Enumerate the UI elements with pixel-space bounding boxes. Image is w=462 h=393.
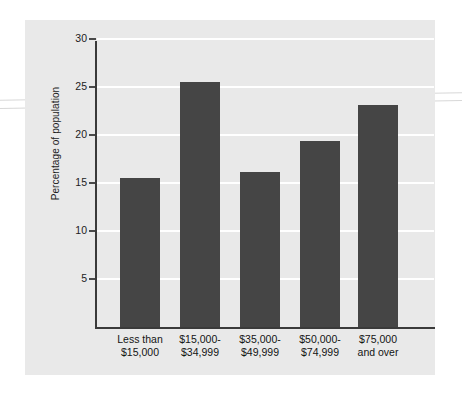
y-axis-line <box>95 41 97 329</box>
y-tick-label: 30 <box>47 32 87 44</box>
chart-plot-area: Percentage of population 51015202530 Les… <box>25 20 435 375</box>
y-tick-label: 10 <box>47 224 87 236</box>
y-axis-title: Percentage of population <box>50 74 61 214</box>
y-tick-label: 25 <box>47 80 87 92</box>
bar <box>300 141 340 327</box>
bar <box>240 172 280 327</box>
y-tick-mark <box>89 38 96 39</box>
y-tick-label: 20 <box>47 128 87 140</box>
figure: Percentage of population 51015202530 Les… <box>0 0 462 393</box>
gridline <box>97 86 434 88</box>
x-category-label-line: and over <box>342 346 414 359</box>
x-axis-line <box>95 327 435 329</box>
y-tick-label: 15 <box>47 176 87 188</box>
x-category-label: $75,000and over <box>342 333 414 359</box>
bar <box>180 82 220 327</box>
bar <box>358 105 398 327</box>
bar <box>120 178 160 327</box>
x-category-label-line: $75,000 <box>342 333 414 346</box>
gridline <box>97 38 434 40</box>
y-tick-label: 5 <box>47 272 87 284</box>
